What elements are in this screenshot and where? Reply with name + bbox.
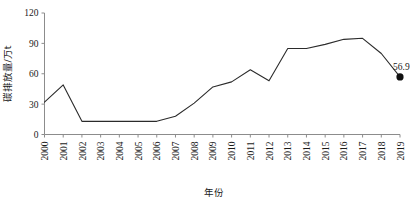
endpoint-value-label: 56.9 [393,62,410,72]
y-tick-label: 0 [34,130,39,140]
data-series [45,38,401,121]
x-tick-label: 2013 [283,141,293,160]
chart-svg: 0306090120 碳排放量/万t 200020012002200320042… [0,0,412,214]
x-axis-title: 年份 [204,187,224,198]
endpoint-annotation: 56.9 [393,62,410,81]
x-axis: 2000200120022003200420052006200720082009… [40,135,406,199]
emission-series-line [45,38,401,121]
y-tick-label: 90 [29,39,39,49]
x-tick-label: 2003 [96,141,106,160]
x-tick-label-group: 2000200120022003200420052006200720082009… [40,141,406,160]
x-tick-label: 2000 [40,141,50,160]
y-tick-label-group: 0306090120 [24,8,39,140]
x-tick-label: 2002 [78,141,88,160]
x-tick-label: 2019 [396,141,406,160]
x-tick-label: 2001 [59,141,69,160]
carbon-emission-line-chart: 0306090120 碳排放量/万t 200020012002200320042… [0,0,412,214]
x-tick-label: 2009 [208,141,218,160]
x-tick-label: 2018 [377,141,387,160]
x-tick-label: 2005 [134,141,144,160]
x-tick-label: 2011 [246,141,256,160]
x-tick-label: 2015 [321,141,331,160]
x-tick-label: 2007 [171,141,181,160]
y-axis: 0306090120 碳排放量/万t [2,8,45,140]
endpoint-marker [396,73,403,80]
x-tick-label: 2010 [227,141,237,160]
x-tick-label: 2008 [190,141,200,160]
x-tick-label: 2014 [302,141,312,160]
x-tick-label: 2017 [358,141,368,160]
y-axis-title: 碳排放量/万t [2,45,13,102]
x-tick-label: 2012 [265,141,275,160]
x-tick-label: 2016 [339,141,349,160]
x-tick-label: 2004 [115,141,125,160]
y-tick-label: 120 [24,8,39,18]
y-tick-label: 30 [29,100,39,110]
x-tick-label: 2006 [152,141,162,160]
y-tick-label: 60 [29,69,39,79]
